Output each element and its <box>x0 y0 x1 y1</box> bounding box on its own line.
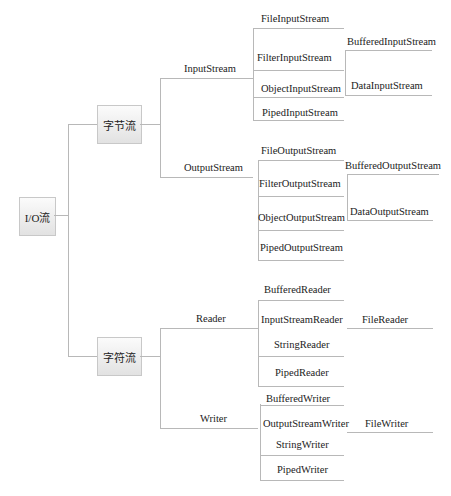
connector <box>347 220 433 221</box>
node-byte-stream: 字节流 <box>97 105 142 144</box>
connector <box>68 124 69 356</box>
node-stringreader: StringReader <box>274 339 329 350</box>
node-fileoutputstream: FileOutputStream <box>261 145 336 156</box>
connector <box>68 124 97 125</box>
connector <box>160 328 161 428</box>
connector <box>253 120 344 121</box>
node-bufferedwriter: BufferedWriter <box>266 393 330 404</box>
node-bufferedoutputstream: BufferedOutputStream <box>345 160 441 171</box>
connector <box>347 174 348 220</box>
connector <box>160 328 258 329</box>
connector <box>258 356 344 357</box>
connector <box>258 260 344 261</box>
connector <box>258 300 344 301</box>
connector <box>260 405 344 406</box>
connector <box>253 97 344 98</box>
node-outputstreamwriter: OutputStreamWriter <box>263 418 349 429</box>
connector <box>140 124 160 125</box>
connector <box>258 386 344 387</box>
node-stringwriter: StringWriter <box>276 439 329 450</box>
node-reader: Reader <box>196 313 226 324</box>
connector <box>140 356 160 357</box>
connector <box>345 50 432 51</box>
node-fileinputstream: FileInputStream <box>261 13 329 24</box>
connector <box>345 95 432 96</box>
connector <box>258 196 344 197</box>
node-pipedwriter: PipedWriter <box>277 464 328 475</box>
node-datainputstream: DataInputStream <box>351 80 423 91</box>
node-objectinputstream: ObjectInputStream <box>261 83 341 94</box>
node-writer: Writer <box>200 413 227 424</box>
connector <box>54 215 68 216</box>
connector <box>260 480 344 481</box>
connector <box>160 78 253 79</box>
node-pipedoutputstream: PipedOutputStream <box>260 242 343 253</box>
node-inputstreamreader: InputStreamReader <box>261 314 343 325</box>
connector <box>160 428 258 429</box>
node-pipedinputstream: PipedInputStream <box>262 107 338 118</box>
connector <box>347 328 433 329</box>
node-pipedreader: PipedReader <box>275 367 329 378</box>
connector <box>260 404 261 481</box>
node-filteroutputstream: FilterOutputStream <box>259 178 341 189</box>
node-label: I/O流 <box>25 209 51 225</box>
node-bufferedinputstream: BufferedInputStream <box>347 36 436 47</box>
connector <box>345 50 346 95</box>
node-bufferedreader: BufferedReader <box>264 284 331 295</box>
connector <box>258 160 259 260</box>
connector <box>260 455 344 456</box>
connector <box>347 432 433 433</box>
node-filewriter: FileWriter <box>365 418 408 429</box>
connector <box>347 174 439 175</box>
node-label: 字符流 <box>103 349 136 365</box>
node-char-stream: 字符流 <box>97 337 142 376</box>
connector <box>258 230 344 231</box>
node-io-root: I/O流 <box>19 197 56 236</box>
node-objectoutputstream: ObjectOutputStream <box>258 212 345 223</box>
connector <box>160 177 253 178</box>
connector <box>258 160 344 161</box>
node-inputstream: InputStream <box>184 63 236 74</box>
node-filereader: FileReader <box>362 314 408 325</box>
node-dataoutputstream: DataOutputStream <box>350 206 429 217</box>
connector <box>160 78 161 177</box>
node-filterinputstream: FilterInputStream <box>257 52 332 63</box>
connector <box>253 28 344 29</box>
node-label: 字节流 <box>103 117 136 133</box>
connector <box>253 70 344 71</box>
node-outputstream: OutputStream <box>184 162 243 173</box>
connector <box>253 28 254 120</box>
connector <box>68 356 97 357</box>
connector <box>258 300 259 386</box>
